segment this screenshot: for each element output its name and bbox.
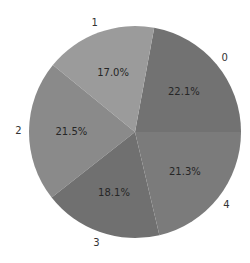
slice-category-label: 4 (223, 199, 229, 210)
slice-category-label: 2 (15, 125, 21, 136)
pie-chart: 22.1%17.0%21.5%18.1%21.3% 01234 (0, 0, 250, 263)
slice-percentage-label: 18.1% (98, 187, 130, 198)
slice-category-label: 3 (93, 237, 99, 248)
slice-category-label: 0 (221, 52, 227, 63)
slice-percentage-label: 17.0% (97, 67, 129, 78)
slice-percentage-label: 21.5% (56, 126, 88, 137)
slice-category-label: 1 (92, 17, 98, 28)
slice-percentage-label: 21.3% (169, 166, 201, 177)
slice-percentage-label: 22.1% (168, 86, 200, 97)
